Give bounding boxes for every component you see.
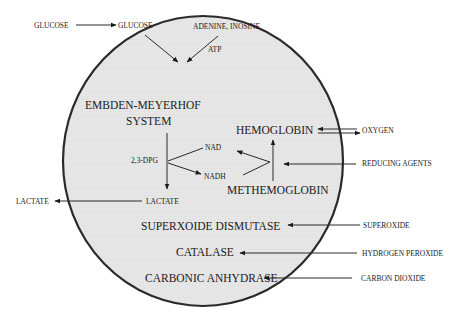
lactate-inside-label: LACTATE bbox=[146, 197, 179, 206]
cell-membrane bbox=[63, 16, 343, 306]
nadh-label: NADH bbox=[204, 172, 226, 181]
carbonic-anhydrase-label: CARBONIC ANHYDRASE bbox=[145, 272, 278, 284]
superoxide-label: SUPEROXIDE bbox=[363, 221, 410, 230]
adenine-inosine-label: ADENINE, INOSINE bbox=[193, 22, 260, 31]
reducing-agents-label: REDUCING AGENTS bbox=[362, 159, 432, 168]
atp-label: ATP bbox=[208, 45, 221, 54]
catalase-label: CATALASE bbox=[176, 246, 234, 258]
embden-meyerhof-label: EMBDEN-MEYERHOF bbox=[85, 99, 201, 111]
carbon-dioxide-label: CARBON DIOXIDE bbox=[361, 274, 426, 283]
superoxide-dismutase-label: SUPERXOIDE DISMUTASE bbox=[141, 220, 280, 232]
oxygen-label: OXYGEN bbox=[362, 126, 394, 135]
dpg-label: 2,3-DPG bbox=[131, 156, 158, 165]
glucose-outside-label: GLUCOSE bbox=[34, 21, 69, 30]
nad-label: NAD bbox=[205, 143, 222, 152]
lactate-outside-label: LACTATE bbox=[16, 197, 49, 206]
glucose-inside-label: GLUCOSE bbox=[118, 21, 153, 30]
hemoglobin-label: HEMOGLOBIN bbox=[236, 124, 314, 136]
hydrogen-peroxide-label: HYDROGEN PEROXIDE bbox=[362, 249, 443, 258]
rbc-diagram: GLUCOSE GLUCOSE ADENINE, INOSINE ATP EMB… bbox=[0, 0, 461, 312]
methemoglobin-label: METHEMOGLOBIN bbox=[227, 184, 329, 196]
system-label: SYSTEM bbox=[126, 115, 171, 127]
